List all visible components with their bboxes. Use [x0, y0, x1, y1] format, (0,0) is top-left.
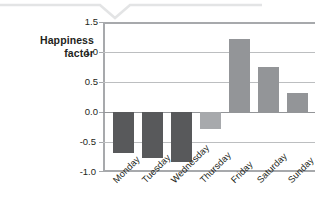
y-tick-label-0-0: 0.0	[64, 107, 98, 117]
bar-friday	[229, 39, 250, 112]
happiness-factor-bar-chart: Happiness factor 1.5 1.0 0.5 0.0 -0.5 -1…	[0, 0, 329, 221]
y-tick-label-1-0: 1.0	[64, 47, 98, 57]
plot-frame-top	[103, 22, 315, 24]
bar-monday	[113, 112, 134, 153]
gridline-1-0	[103, 52, 315, 53]
y-tick-label-0-5: 0.5	[64, 77, 98, 87]
y-axis-label-line-1: Happiness	[6, 34, 94, 47]
gridline-neg-0-5	[103, 142, 315, 143]
gridline-0-5	[103, 82, 315, 83]
y-tick-label-neg-1-0: -1.0	[62, 167, 96, 177]
y-tick-label-neg-0-5: -0.5	[62, 137, 96, 147]
y-tick-label-1-5: 1.5	[64, 17, 98, 27]
bar-sunday	[287, 93, 308, 112]
bar-saturday	[258, 67, 279, 112]
plot-frame-left	[103, 22, 105, 172]
bar-thursday	[200, 112, 221, 129]
bar-wednesday	[171, 112, 192, 162]
bar-tuesday	[142, 112, 163, 158]
callout-bracket-decoration	[0, 2, 270, 20]
